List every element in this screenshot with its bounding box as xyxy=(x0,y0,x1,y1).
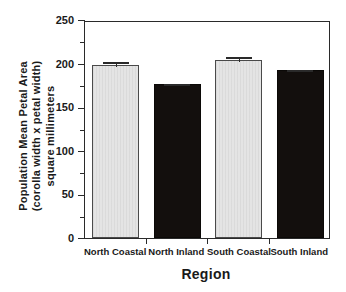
y-tick-label: 250 xyxy=(34,15,74,26)
bar xyxy=(277,70,324,238)
bar xyxy=(154,84,201,238)
y-tick-label: 100 xyxy=(34,146,74,157)
x-category-label: South Inland xyxy=(269,246,331,257)
x-tick-mark xyxy=(146,239,147,244)
bar xyxy=(92,65,139,238)
bar xyxy=(215,60,262,238)
x-category-label: North Inland xyxy=(146,246,208,257)
error-bar-cap xyxy=(226,57,252,59)
error-bar-cap xyxy=(103,62,129,64)
y-axis-title-line-1: Population Mean Petal Area xyxy=(17,61,31,211)
x-tick-mark xyxy=(207,239,208,244)
y-tick-label: 150 xyxy=(34,102,74,113)
y-tick-label: 0 xyxy=(34,233,74,244)
x-category-label: South Coastal xyxy=(207,246,269,257)
bar-chart-figure: Population Mean Petal Area (corolla widt… xyxy=(0,0,346,292)
y-tick-label: 50 xyxy=(34,189,74,200)
y-tick-label: 200 xyxy=(34,59,74,70)
plot-area xyxy=(84,21,330,239)
x-tick-mark xyxy=(269,239,270,244)
x-category-label: North Coastal xyxy=(84,246,146,257)
x-axis-title: Region xyxy=(0,266,346,282)
